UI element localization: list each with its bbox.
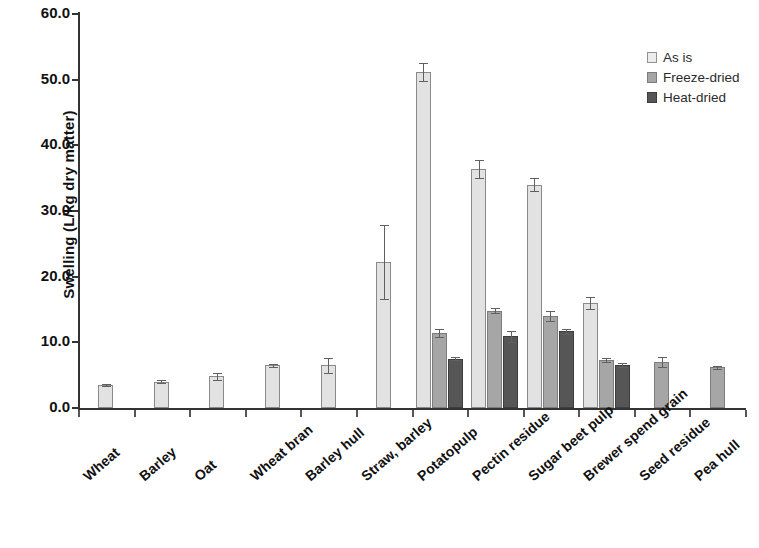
y-tick-label: 40.0: [8, 135, 70, 152]
error-bar-cap: [546, 321, 555, 322]
x-tick-mark: [356, 410, 358, 417]
error-bar-cap: [618, 363, 627, 364]
bar: [432, 333, 447, 408]
error-bar-cap: [507, 342, 516, 343]
error-bar-cap: [491, 313, 500, 314]
error-bar-cap: [157, 380, 166, 381]
y-tick-label: 30.0: [8, 201, 70, 218]
x-tick-mark: [467, 410, 469, 417]
error-bar-cap: [102, 386, 111, 387]
error-bar-cap: [530, 178, 539, 179]
x-tick-mark: [689, 410, 691, 417]
error-bar: [439, 329, 440, 337]
bar: [559, 331, 574, 408]
error-bar: [423, 63, 424, 81]
error-bar: [662, 357, 663, 368]
bar: [527, 185, 542, 408]
bar: [471, 169, 486, 408]
error-bar-cap: [269, 364, 278, 365]
bar: [265, 365, 280, 408]
error-bar-cap: [713, 369, 722, 370]
bar: [209, 376, 224, 408]
error-bar: [590, 297, 591, 309]
error-bar-cap: [491, 308, 500, 309]
x-tick-mark: [578, 410, 580, 417]
x-tick-label: Oat: [191, 456, 219, 484]
error-bar-cap: [380, 299, 389, 300]
bar: [416, 72, 431, 408]
legend-item: Heat-dried: [647, 88, 759, 106]
legend-swatch-icon: [647, 92, 657, 103]
error-bar-cap: [530, 191, 539, 192]
chart-figure: Swelling (L/kg dry matter) 0.010.020.030…: [0, 0, 759, 548]
error-bar-cap: [658, 367, 667, 368]
x-tick-label: Pea hull: [691, 436, 743, 484]
y-tick-label: 20.0: [8, 267, 70, 284]
x-tick-mark: [78, 410, 80, 417]
error-bar-cap: [213, 373, 222, 374]
error-bar-cap: [602, 362, 611, 363]
error-bar-cap: [435, 337, 444, 338]
error-bar-cap: [586, 297, 595, 298]
error-bar-cap: [451, 360, 460, 361]
error-bar-cap: [380, 225, 389, 226]
error-bar-cap: [451, 357, 460, 358]
error-bar-cap: [562, 329, 571, 330]
error-bar: [384, 225, 385, 299]
x-tick-mark: [300, 410, 302, 417]
error-bar-cap: [102, 384, 111, 385]
legend-item: Freeze-dried: [647, 68, 759, 86]
error-bar-cap: [419, 81, 428, 82]
error-bar-cap: [324, 358, 333, 359]
error-bar-cap: [419, 63, 428, 64]
x-tick-mark: [523, 410, 525, 417]
bar: [154, 382, 169, 408]
bar: [615, 365, 630, 408]
error-bar-cap: [507, 331, 516, 332]
y-tick-label: 0.0: [8, 398, 70, 415]
bar: [583, 303, 598, 408]
error-bar-cap: [602, 358, 611, 359]
y-tick-label: 50.0: [8, 70, 70, 87]
error-bar: [534, 178, 535, 191]
plot-area: [78, 14, 745, 408]
bar: [448, 359, 463, 408]
bar: [503, 336, 518, 408]
bar: [487, 311, 502, 408]
error-bar-cap: [586, 309, 595, 310]
legend-label: Heat-dried: [663, 90, 726, 105]
legend-swatch-icon: [647, 52, 657, 63]
x-tick-mark: [745, 410, 747, 417]
x-tick-mark: [245, 410, 247, 417]
x-tick-label: Wheat: [80, 444, 123, 484]
error-bar-cap: [562, 334, 571, 335]
error-bar-cap: [324, 373, 333, 374]
bar: [543, 316, 558, 408]
error-bar-cap: [157, 383, 166, 384]
error-bar-cap: [435, 329, 444, 330]
bar: [98, 385, 113, 408]
error-bar: [479, 160, 480, 178]
x-tick-mark: [412, 410, 414, 417]
y-tick-label: 60.0: [8, 4, 70, 21]
legend-label: As is: [663, 50, 692, 65]
legend-swatch-icon: [647, 72, 657, 83]
error-bar-cap: [269, 367, 278, 368]
error-bar: [328, 358, 329, 372]
error-bar-cap: [213, 380, 222, 381]
error-bar: [550, 311, 551, 322]
chart-legend: As isFreeze-driedHeat-dried: [647, 48, 759, 108]
x-tick-mark: [189, 410, 191, 417]
error-bar-cap: [475, 160, 484, 161]
x-tick-label: Barley: [136, 444, 179, 485]
y-tick-label: 10.0: [8, 332, 70, 349]
error-bar-cap: [713, 366, 722, 367]
legend-item: As is: [647, 48, 759, 66]
x-tick-mark: [634, 410, 636, 417]
error-bar: [511, 331, 512, 342]
error-bar-cap: [658, 357, 667, 358]
bar: [710, 367, 725, 408]
error-bar-cap: [546, 311, 555, 312]
error-bar-cap: [475, 178, 484, 179]
legend-label: Freeze-dried: [663, 70, 740, 85]
